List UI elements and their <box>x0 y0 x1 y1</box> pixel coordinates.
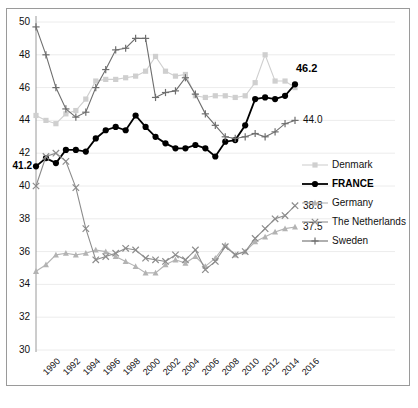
chart-legend: DenmarkFRANCEGermanyThe NetherlandsSwede… <box>300 155 414 250</box>
y-tick-30: 30 <box>4 344 30 355</box>
legend-item-germany[interactable]: Germany <box>300 193 414 212</box>
legend-label: FRANCE <box>330 178 374 189</box>
y-tick-40: 40 <box>4 180 30 191</box>
y-tick-36: 36 <box>4 246 30 257</box>
legend-marker-icon <box>300 158 330 172</box>
end-label-france: 46.2 <box>296 62 317 74</box>
legend-label: Denmark <box>330 159 373 170</box>
legend-label: The Netherlands <box>330 216 406 227</box>
legend-marker-icon <box>300 215 330 229</box>
legend-item-france[interactable]: FRANCE <box>300 174 414 193</box>
legend-item-sweden[interactable]: Sweden <box>300 231 414 250</box>
y-tick-48: 48 <box>4 49 30 60</box>
chart-container: 303234363840424446485041.2 1990199219941… <box>0 0 418 408</box>
y-tick-34: 34 <box>4 278 30 289</box>
france-start-label: 41.2 <box>0 160 32 171</box>
legend-label: Germany <box>330 197 373 208</box>
y-tick-42: 42 <box>4 147 30 158</box>
legend-marker-icon <box>300 234 330 248</box>
y-tick-38: 38 <box>4 213 30 224</box>
y-tick-32: 32 <box>4 311 30 322</box>
legend-item-the-netherlands[interactable]: The Netherlands <box>300 212 414 231</box>
legend-marker-icon <box>300 177 330 191</box>
y-tick-50: 50 <box>4 16 30 27</box>
legend-marker-icon <box>300 196 330 210</box>
y-tick-46: 46 <box>4 82 30 93</box>
legend-label: Sweden <box>330 235 368 246</box>
series-sweden <box>32 23 298 142</box>
y-tick-44: 44 <box>4 114 30 125</box>
series-germany <box>33 224 298 276</box>
end-label-sweden: 44.0 <box>303 114 322 125</box>
legend-item-denmark[interactable]: Denmark <box>300 155 414 174</box>
